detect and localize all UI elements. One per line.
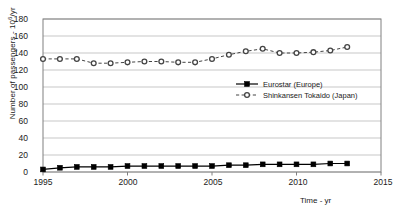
data-point-marker (159, 59, 164, 64)
legend-marker-2 (245, 93, 250, 98)
data-point-marker (142, 59, 147, 64)
data-point-marker (277, 51, 282, 56)
x-tick-label: 2010 (283, 178, 313, 187)
y-tick-label: 60 (2, 117, 28, 126)
data-point-marker (210, 164, 215, 169)
legend-label-2: Shinkansen Tokaido (Japan) (263, 91, 358, 100)
data-point-marker (41, 167, 46, 172)
data-point-marker (91, 61, 96, 66)
x-tick-label: 2000 (113, 178, 143, 187)
data-point-marker (193, 60, 198, 65)
data-point-marker (260, 162, 265, 167)
data-point-marker (294, 162, 299, 167)
chart-container: Number of passengers - 106/yr Time - yr … (0, 0, 415, 213)
data-point-marker (328, 48, 333, 53)
data-point-marker (260, 46, 265, 51)
data-point-marker (74, 57, 79, 62)
data-point-marker (176, 60, 181, 65)
data-point-marker (345, 45, 350, 50)
data-point-marker (125, 60, 130, 65)
y-tick-label: 20 (2, 151, 28, 160)
y-tick-label: 40 (2, 134, 28, 143)
data-point-marker (159, 164, 164, 169)
y-tick-label: 0 (2, 168, 28, 177)
data-point-marker (345, 161, 350, 166)
x-tick-label: 1995 (28, 178, 58, 187)
data-point-marker (328, 161, 333, 166)
x-tick-label: 2015 (368, 178, 398, 187)
data-point-marker (91, 165, 96, 170)
y-tick-label: 80 (2, 100, 28, 109)
data-point-marker (41, 57, 46, 62)
data-point-marker (142, 164, 147, 169)
data-point-marker (227, 163, 232, 168)
data-point-marker (193, 164, 198, 169)
y-tick-label: 140 (2, 49, 28, 58)
y-tick-label: 160 (2, 32, 28, 41)
legend-label-1: Eurostar (Europe) (263, 80, 323, 89)
data-point-marker (58, 165, 63, 170)
data-point-marker (74, 165, 79, 170)
data-point-marker (311, 50, 316, 55)
y-tick-label: 100 (2, 83, 28, 92)
data-point-marker (243, 49, 248, 54)
data-point-marker (243, 163, 248, 168)
x-axis-label: Time - yr (300, 196, 331, 205)
data-point-marker (125, 164, 130, 169)
data-point-marker (108, 165, 113, 170)
data-point-marker (227, 52, 232, 57)
y-tick-label: 180 (2, 15, 28, 24)
data-point-marker (210, 57, 215, 62)
data-point-marker (277, 162, 282, 167)
data-point-marker (58, 57, 63, 62)
data-point-marker (176, 164, 181, 169)
y-tick-label: 120 (2, 66, 28, 75)
data-point-marker (311, 162, 316, 167)
data-point-marker (294, 51, 299, 56)
legend-marker-1 (245, 82, 250, 87)
data-point-marker (108, 61, 113, 66)
x-tick-label: 2005 (198, 178, 228, 187)
